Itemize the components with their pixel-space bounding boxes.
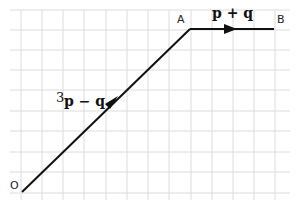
vector-diagram: O A B 3 p − q p + q: [0, 0, 303, 200]
vector-ab-label: p + q: [212, 5, 253, 21]
arrowhead-oa: [105, 96, 118, 109]
point-label-o: O: [10, 179, 19, 192]
vector-oa-label: p − q: [64, 93, 105, 109]
point-label-b: B: [277, 13, 285, 26]
point-label-a: A: [177, 13, 185, 26]
grid: [10, 10, 290, 200]
arrowhead-ab: [224, 24, 237, 34]
